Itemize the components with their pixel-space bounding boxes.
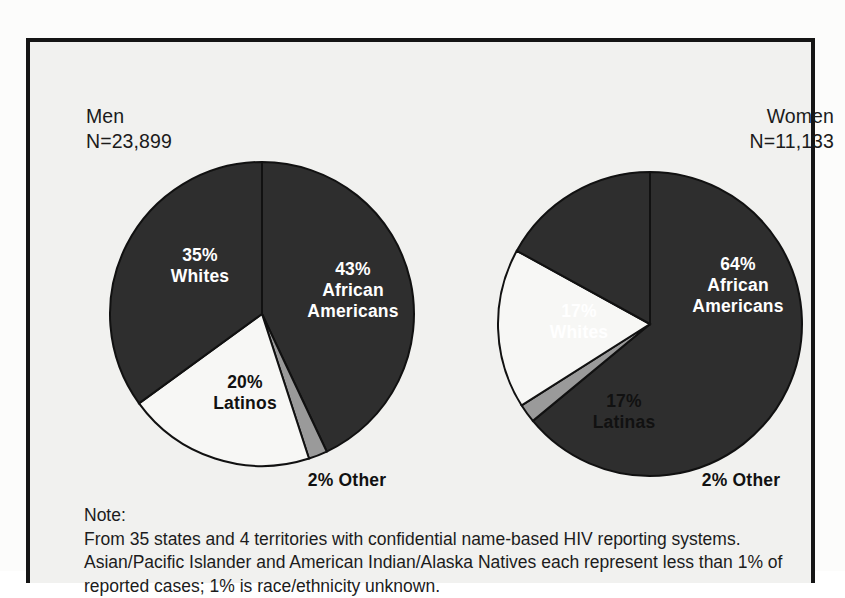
men-label-latinos: 20% Latinos	[185, 372, 305, 414]
men-label-african-americans: 43% African Americans	[273, 259, 433, 322]
women-label-other: 2% Other	[676, 470, 806, 491]
women-latinas-pct: 17%	[569, 391, 679, 412]
women-label-latinas: 17% Latinas	[569, 391, 679, 433]
note-title: Note:	[84, 504, 784, 528]
women-latinas-name: Latinas	[569, 412, 679, 433]
women-whites-name: Whites	[524, 322, 634, 343]
women-label-whites: 17% Whites	[524, 301, 634, 343]
women-aa-name-line2: Americans	[658, 296, 818, 317]
men-aa-name-line1: African	[273, 280, 433, 301]
figure-panel: Men N=23,899 Women N=11,133	[26, 38, 815, 583]
women-aa-name-line1: African	[658, 275, 818, 296]
men-aa-name-line2: Americans	[273, 301, 433, 322]
men-whites-pct: 35%	[140, 245, 260, 266]
women-panel-heading: Women N=11,133	[634, 104, 834, 154]
men-sample-size: N=23,899	[86, 129, 172, 154]
men-label-other: 2% Other	[282, 470, 412, 491]
women-whites-pct: 17%	[524, 301, 634, 322]
note-body: From 35 states and 4 territories with co…	[84, 528, 784, 598]
men-group-label: Men	[86, 104, 172, 129]
women-aa-pct: 64%	[658, 254, 818, 275]
women-label-african-americans: 64% African Americans	[658, 254, 818, 317]
women-sample-size: N=11,133	[634, 129, 834, 154]
men-latinos-name: Latinos	[185, 393, 305, 414]
men-whites-name: Whites	[140, 266, 260, 287]
men-aa-pct: 43%	[273, 259, 433, 280]
women-group-label: Women	[634, 104, 834, 129]
figure-note: Note: From 35 states and 4 territories w…	[84, 504, 784, 598]
men-label-whites: 35% Whites	[140, 245, 260, 287]
men-panel-heading: Men N=23,899	[86, 104, 172, 154]
men-latinos-pct: 20%	[185, 372, 305, 393]
